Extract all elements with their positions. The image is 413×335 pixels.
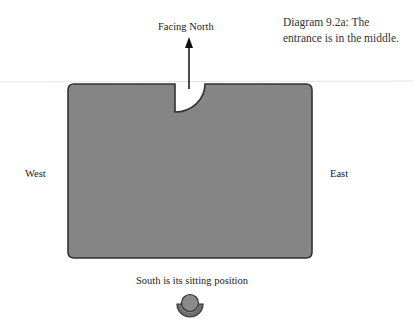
building-footprint [68,84,312,258]
caption-line-2: entrance is in the middle. [283,30,399,46]
west-label: West [25,167,46,180]
south-label: South is its sitting position [136,274,248,287]
north-label: Facing North [158,20,214,33]
diagram-caption: Diagram 9.2a: The entrance is in the mid… [283,14,399,46]
caption-line-1: Diagram 9.2a: The [283,14,399,30]
sitting-person-icon [177,295,203,318]
divider-line [0,81,413,82]
east-label: East [330,167,348,180]
